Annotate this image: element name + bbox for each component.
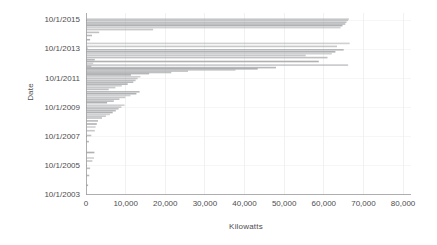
x-tick-label: 80,000 — [391, 199, 415, 208]
plot-svg — [86, 13, 411, 195]
x-tick-label: 0 — [84, 199, 88, 208]
x-tick-label: 60,000 — [312, 199, 336, 208]
bar — [87, 130, 95, 132]
bar — [87, 152, 95, 154]
x-tick-label: 20,000 — [153, 199, 177, 208]
bar — [87, 46, 338, 48]
bar — [87, 114, 110, 116]
x-tick-label: 50,000 — [272, 199, 296, 208]
x-tick-label: 40,000 — [232, 199, 256, 208]
bar — [87, 78, 138, 80]
bar — [87, 117, 103, 119]
vertical-gridlines — [126, 13, 404, 195]
bar — [87, 64, 349, 66]
bar — [87, 57, 328, 59]
bar — [87, 27, 341, 29]
bar — [87, 51, 336, 53]
bar — [87, 112, 113, 114]
bar — [87, 175, 90, 177]
bar — [87, 53, 332, 55]
bar — [87, 87, 116, 89]
bar — [87, 81, 134, 83]
bar — [87, 168, 91, 170]
x-axis-title: Kilowatts — [86, 222, 406, 231]
bar — [87, 55, 306, 57]
bar — [87, 59, 95, 61]
x-tick-label: 30,000 — [193, 199, 217, 208]
bar — [87, 25, 343, 27]
bar — [87, 61, 319, 63]
bar — [87, 123, 97, 125]
bar — [87, 29, 154, 31]
bar — [87, 120, 99, 122]
bar — [87, 102, 108, 104]
bar — [87, 63, 94, 65]
bar — [87, 83, 128, 85]
x-tick-label: 10,000 — [113, 199, 137, 208]
bar — [87, 91, 140, 93]
bar — [87, 98, 120, 100]
bar — [87, 76, 141, 78]
bar — [87, 95, 131, 97]
bar — [87, 21, 347, 23]
bar — [87, 93, 137, 95]
plot-area — [86, 13, 411, 195]
bar — [87, 160, 93, 162]
bar — [87, 49, 344, 51]
bar — [87, 126, 96, 128]
bar — [87, 108, 119, 110]
bar — [87, 110, 116, 112]
bar — [87, 43, 350, 45]
bar — [87, 157, 95, 159]
bar — [87, 89, 109, 91]
bar — [87, 23, 346, 25]
bar — [87, 100, 114, 102]
bar — [87, 20, 349, 22]
bar — [87, 32, 100, 34]
bar — [87, 39, 91, 41]
kilowatts-vs-date-chart: Date 10/1/201510/1/201310/1/201110/1/200… — [0, 0, 437, 245]
x-tick-label: 70,000 — [351, 199, 375, 208]
bar — [87, 85, 122, 87]
bar — [87, 135, 92, 137]
bar — [87, 97, 126, 99]
bar — [87, 115, 106, 117]
bar — [87, 80, 136, 82]
bar — [87, 106, 122, 108]
bar — [87, 74, 131, 76]
bar — [87, 104, 125, 106]
bar — [87, 35, 93, 37]
